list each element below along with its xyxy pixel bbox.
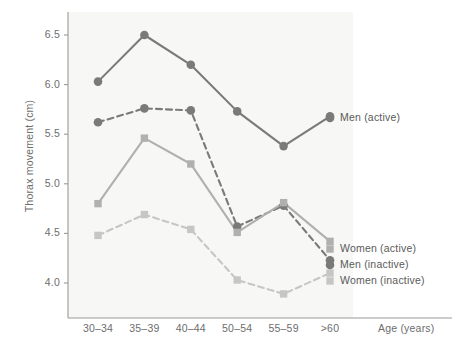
data-point: [187, 106, 196, 115]
series-markers: [94, 31, 335, 298]
data-point: [280, 199, 287, 206]
data-point: [94, 118, 103, 127]
legend-marker: [326, 261, 335, 270]
data-point: [187, 160, 194, 167]
data-point: [326, 269, 333, 276]
data-point: [233, 107, 242, 116]
legend-marker: [326, 277, 333, 284]
data-point: [94, 232, 101, 239]
data-point: [94, 77, 103, 86]
data-point: [140, 104, 149, 113]
data-point: [279, 142, 288, 151]
series-line-men-active: [98, 35, 330, 146]
data-point: [141, 134, 148, 141]
chart-canvas: [0, 0, 460, 354]
chart-figure: Thorax movement (cm) Age (years) 6.56.05…: [0, 0, 460, 354]
legend-marker: [326, 114, 335, 123]
data-point: [234, 229, 241, 236]
data-point: [187, 226, 194, 233]
data-point: [140, 31, 149, 40]
data-point: [280, 290, 287, 297]
data-point: [326, 238, 333, 245]
data-point: [141, 211, 148, 218]
data-point: [94, 200, 101, 207]
data-point: [187, 60, 196, 69]
y-axis-ticks: [64, 35, 68, 283]
data-point: [234, 276, 241, 283]
series-lines: [98, 35, 330, 294]
legend-marker: [326, 245, 333, 252]
series-line-women-inactive: [98, 215, 330, 294]
series-line-women-active: [98, 138, 330, 241]
series-line-men-inactive: [98, 108, 330, 260]
